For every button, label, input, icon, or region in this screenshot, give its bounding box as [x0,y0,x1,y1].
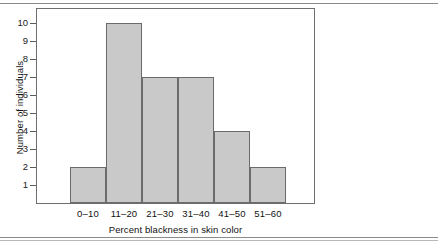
y-axis-tick-label: 9 [10,36,28,46]
y-axis-tick-label: 1 [10,180,28,190]
x-axis-title: Percent blackness in skin color [36,224,315,235]
page-rule-bottom-divider-secondary [0,240,438,241]
histogram-bar [178,77,214,203]
histogram-bar [70,167,106,203]
histogram-bar [214,131,250,203]
y-axis-tick-label: 10 [10,18,28,28]
y-axis-tick-label: 8 [10,54,28,64]
histogram-bar [106,23,142,203]
y-axis-tick-label: 7 [10,72,28,82]
page-rule-bottom-divider [0,237,438,238]
y-axis-tick-label: 2 [10,162,28,172]
page-rule-top-divider [0,3,438,4]
y-axis-tick-label: 6 [10,90,28,100]
histogram-bar [250,167,286,203]
histogram-figure: Number of individuals 12345678910 0–1011… [0,0,438,243]
y-axis-tick-label: 4 [10,126,28,136]
y-axis-tick-label: 5 [10,108,28,118]
x-axis-tick-label: 51–60 [246,208,290,219]
histogram-bar [142,77,178,203]
y-axis-tick-label: 3 [10,144,28,154]
plot-area [37,9,314,203]
